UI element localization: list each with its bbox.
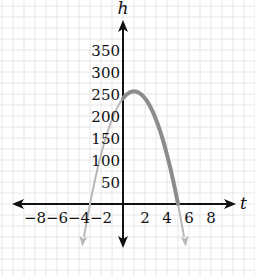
x-tick-label: −8: [24, 209, 46, 227]
y-tick-label: 50: [101, 174, 120, 192]
x-tick-label: −4: [68, 209, 90, 227]
grid: [0, 0, 255, 276]
curve-extended-right: [178, 204, 184, 237]
curve-domain: [123, 91, 178, 204]
y-tick-label: 200: [91, 108, 120, 126]
y-tick-label: 150: [91, 130, 120, 148]
y-tick-label: 300: [91, 64, 120, 82]
y-tick-label: 100: [91, 152, 120, 170]
x-tick-label: 2: [140, 209, 150, 227]
x-tick-label: −2: [90, 209, 112, 227]
parabola-chart: 50100150200250300350−8−6−4−22468th: [0, 0, 255, 276]
y-tick-label: 350: [91, 42, 120, 60]
y-tick-label: 250: [91, 86, 120, 104]
x-tick-label: 8: [206, 209, 216, 227]
x-tick-label: −6: [46, 209, 68, 227]
h-axis-label: h: [118, 0, 129, 18]
x-tick-label: 6: [184, 209, 194, 227]
x-tick-label: 4: [162, 209, 172, 227]
curve-arrow-left-icon: [79, 236, 87, 247]
t-axis-label: t: [240, 193, 247, 213]
curve-arrow-right-icon: [181, 236, 189, 247]
